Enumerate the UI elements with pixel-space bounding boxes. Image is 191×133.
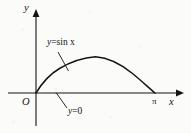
sine-curve <box>36 57 155 93</box>
x-tick-label-pi: π <box>152 97 157 106</box>
curve-equation-rhs: sin x <box>57 37 75 47</box>
y-axis-arrowhead-icon <box>33 9 40 17</box>
sine-curve-figure: y x O π y=sin x y=0 <box>0 0 191 133</box>
y-axis <box>33 9 40 126</box>
x-axis <box>8 90 184 97</box>
x-axis-arrowhead-icon <box>176 90 184 97</box>
origin-label: O <box>22 97 30 108</box>
curve-equation-label: y=sin x <box>47 38 75 48</box>
baseline-equation-label: y=0 <box>68 107 82 117</box>
figure-canvas <box>0 0 191 133</box>
baseline-label-leader-line <box>56 93 67 109</box>
y-axis-label: y <box>24 3 29 14</box>
x-axis-label: x <box>169 97 174 108</box>
baseline-equation-rhs: 0 <box>78 106 83 116</box>
